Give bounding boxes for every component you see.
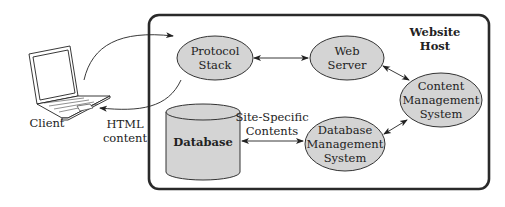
cms-label-line2: Management	[403, 93, 480, 107]
node-database-management-system: Database Management System	[305, 117, 385, 171]
diagram-canvas: Website Host Client HTML content Protoco…	[0, 0, 505, 207]
website-host-label-line1: Website	[409, 25, 461, 39]
cms-label-line1: Content	[418, 79, 465, 93]
laptop-icon	[29, 46, 110, 120]
dbms-label-line2: Management	[307, 137, 384, 151]
cms-label-line3: System	[420, 107, 463, 121]
node-content-management-system: Content Management System	[400, 73, 482, 127]
html-content-label-line1: HTML	[106, 117, 143, 131]
html-content-label-line2: content	[103, 131, 148, 145]
database-label: Database	[173, 135, 232, 149]
protocol-stack-label-line1: Protocol	[191, 44, 240, 58]
html-response-arrow	[100, 80, 181, 109]
node-web-server: Web Server	[310, 36, 384, 80]
site-specific-label-line1: Site-Specific	[235, 110, 308, 124]
node-protocol-stack: Protocol Stack	[177, 36, 253, 80]
edge-webserver-cms	[383, 66, 409, 80]
request-arrow	[84, 35, 173, 80]
web-server-label-line2: Server	[328, 58, 367, 72]
web-server-label-line1: Web	[334, 44, 359, 58]
site-specific-label-line2: Contents	[246, 124, 299, 138]
dbms-label-line1: Database	[318, 123, 373, 137]
website-host-label-line2: Host	[420, 39, 451, 53]
client-label: Client	[30, 116, 65, 130]
dbms-label-line3: System	[324, 151, 367, 165]
edge-dbms-cms	[384, 120, 407, 134]
protocol-stack-label-line2: Stack	[199, 58, 233, 72]
